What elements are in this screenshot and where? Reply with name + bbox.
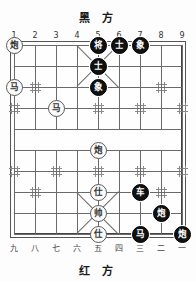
piece-label: 象 <box>94 83 103 92</box>
piece-label: 马 <box>52 104 61 113</box>
piece-red-horse-1[interactable]: 马 <box>6 79 23 96</box>
piece-label: 炮 <box>157 209 166 218</box>
piece-red-advisor-1[interactable]: 仕 <box>90 184 107 201</box>
piece-black-advisor-1[interactable]: 士 <box>111 37 128 54</box>
star-point-icon <box>93 103 104 114</box>
piece-red-advisor-2[interactable]: 仕 <box>90 226 107 243</box>
piece-label: 炮 <box>94 146 103 155</box>
coord-label: 六 <box>70 243 84 255</box>
star-point-icon <box>30 82 41 93</box>
star-point-icon <box>9 103 20 114</box>
piece-label: 士 <box>94 62 103 71</box>
star-point-icon <box>156 82 167 93</box>
star-point-icon <box>135 103 146 114</box>
red-side-label: 红 方 <box>0 262 196 278</box>
star-point-icon <box>177 166 188 177</box>
coord-label: 四 <box>112 243 126 255</box>
piece-black-general[interactable]: 将 <box>90 37 107 54</box>
piece-label: 车 <box>136 188 145 197</box>
piece-label: 仕 <box>94 188 103 197</box>
piece-black-horse[interactable]: 马 <box>132 226 149 243</box>
piece-black-cannon-2[interactable]: 炮 <box>174 226 191 243</box>
star-point-icon <box>156 187 167 198</box>
bottom-coordinate-row: 九八七六五四三二一 <box>0 243 196 255</box>
coord-label: 八 <box>28 243 42 255</box>
piece-label: 马 <box>136 230 145 239</box>
coord-label: 三 <box>133 243 147 255</box>
star-point-icon <box>135 166 146 177</box>
piece-label: 士 <box>115 41 124 50</box>
xiangqi-board[interactable]: 炮将士象士马象马炮仕车帅炮仕马炮 <box>14 45 182 234</box>
xiangqi-board-figure: 黑 方 123456789 炮将士象士马象马炮仕车帅炮仕马炮 九八七六五四三二一… <box>0 0 196 281</box>
coord-label: 九 <box>7 243 21 255</box>
piece-label: 马 <box>10 83 19 92</box>
piece-label: 将 <box>94 41 103 50</box>
star-point-icon <box>30 187 41 198</box>
star-point-icon <box>9 166 20 177</box>
piece-label: 仕 <box>94 230 103 239</box>
piece-red-horse-2[interactable]: 马 <box>48 100 65 117</box>
coord-label: 一 <box>175 243 189 255</box>
piece-red-general[interactable]: 帅 <box>90 205 107 222</box>
star-point-icon <box>93 166 104 177</box>
coord-label: 二 <box>154 243 168 255</box>
piece-label: 帅 <box>94 209 103 218</box>
piece-black-elephant-2[interactable]: 象 <box>90 79 107 96</box>
piece-black-elephant-1[interactable]: 象 <box>132 37 149 54</box>
star-point-icon <box>177 103 188 114</box>
coord-label: 七 <box>49 243 63 255</box>
coord-label: 五 <box>91 243 105 255</box>
piece-red-cannon-2[interactable]: 炮 <box>90 142 107 159</box>
black-side-label: 黑 方 <box>0 9 196 25</box>
piece-red-cannon-1[interactable]: 炮 <box>6 37 23 54</box>
star-point-icon <box>51 166 62 177</box>
piece-black-advisor-2[interactable]: 士 <box>90 58 107 75</box>
piece-black-cannon-1[interactable]: 炮 <box>153 205 170 222</box>
piece-black-chariot[interactable]: 车 <box>132 184 149 201</box>
piece-label: 炮 <box>178 230 187 239</box>
piece-label: 象 <box>136 41 145 50</box>
piece-label: 炮 <box>10 41 19 50</box>
